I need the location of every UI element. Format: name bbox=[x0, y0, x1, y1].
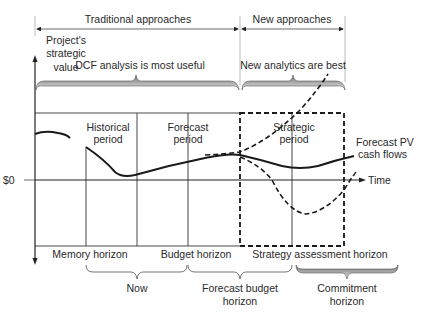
forecast-label-line2: period bbox=[173, 133, 202, 145]
now-label: Now bbox=[126, 282, 147, 294]
historical-label-line2: period bbox=[93, 133, 122, 145]
dcf-brace bbox=[36, 75, 239, 90]
commitment-brace bbox=[296, 265, 398, 279]
budget-horizon-label: Budget horizon bbox=[161, 248, 232, 260]
y-axis-label-line2: strategic bbox=[46, 47, 86, 59]
y-axis-label-line1: Project's bbox=[46, 34, 86, 46]
forecast-pv-label-line2: cash flows bbox=[358, 148, 407, 160]
strategic-label-line2: period bbox=[279, 133, 308, 145]
y-axis: Project's strategic value $0 bbox=[3, 34, 86, 265]
arrow-right-icon bbox=[359, 178, 366, 183]
forecast-pv-curve bbox=[86, 147, 354, 176]
arrow-down-icon bbox=[33, 258, 38, 265]
forecast-pv-label-line1: Forecast PV bbox=[356, 136, 414, 148]
strategic-value-diagram: Traditional approaches New approaches Pr… bbox=[0, 0, 426, 324]
new-approaches-label: New approaches bbox=[253, 13, 332, 25]
strategy-assessment-horizon-label: Strategy assessment horizon bbox=[252, 248, 388, 260]
commitment-label-line2: horizon bbox=[330, 295, 365, 307]
arrow-up-icon bbox=[33, 55, 38, 62]
forecast-budget-label-line2: horizon bbox=[223, 295, 258, 307]
now-brace bbox=[86, 265, 187, 279]
strategic-label-line1: Strategic bbox=[273, 121, 314, 133]
zero-label: $0 bbox=[3, 174, 15, 186]
traditional-approaches-label: Traditional approaches bbox=[85, 13, 191, 25]
x-axis: Time bbox=[35, 174, 391, 186]
bottom-braces: Now Forecast budget horizon Commitment h… bbox=[86, 265, 398, 307]
forecast-budget-label-line1: Forecast budget bbox=[202, 282, 278, 294]
memory-horizon-label: Memory horizon bbox=[52, 248, 127, 260]
commitment-label-line1: Commitment bbox=[317, 282, 377, 294]
value-curves: Forecast PV cash flows bbox=[35, 74, 414, 214]
horizon-labels: Memory horizon Budget horizon Strategy a… bbox=[52, 248, 387, 260]
dcf-label: DCF analysis is most useful bbox=[75, 59, 205, 71]
period-labels: Historical period Forecast period Strate… bbox=[86, 121, 314, 145]
historical-curve bbox=[35, 132, 70, 138]
historical-label-line1: Historical bbox=[86, 121, 129, 133]
new-analytics-label: New analytics are best bbox=[240, 59, 346, 71]
new-analytics-brace bbox=[242, 75, 345, 90]
forecast-label-line1: Forecast bbox=[168, 121, 209, 133]
top-braces: DCF analysis is most useful New analytic… bbox=[36, 59, 346, 90]
downside-dashed-curve bbox=[240, 157, 356, 214]
x-axis-label: Time bbox=[368, 174, 391, 186]
forecast-budget-brace bbox=[188, 265, 292, 279]
